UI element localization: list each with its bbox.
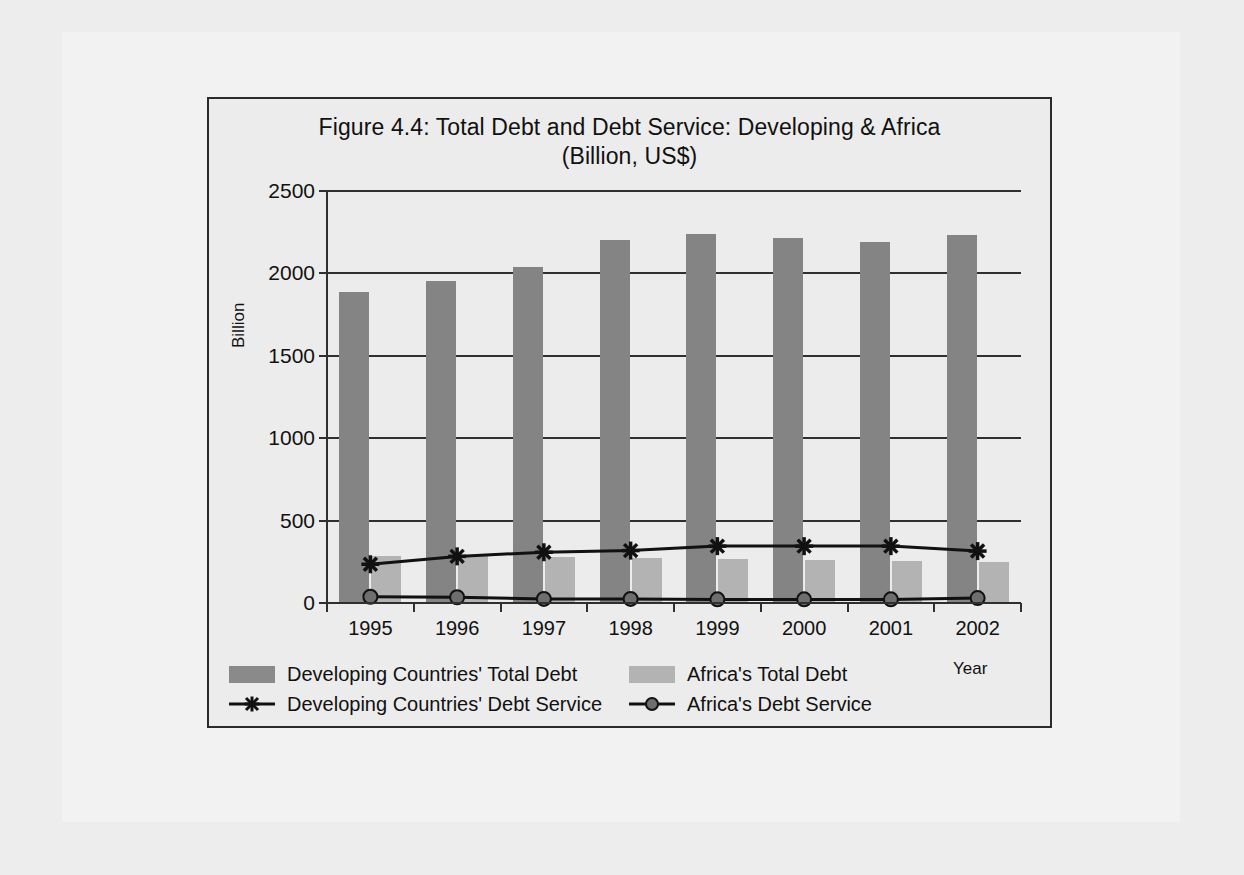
chart-figure: Figure 4.4: Total Debt and Debt Service:… — [207, 97, 1052, 728]
bar — [805, 560, 835, 603]
legend-line-circle-icon — [629, 695, 675, 713]
x-tick-label: 2001 — [869, 617, 914, 640]
x-tick-label: 1995 — [348, 617, 393, 640]
chart-title: Figure 4.4: Total Debt and Debt Service:… — [209, 113, 1050, 172]
x-tick-label: 1998 — [608, 617, 653, 640]
bar — [545, 557, 575, 603]
bar — [773, 238, 803, 603]
y-tick-label: 1000 — [268, 426, 315, 450]
bar — [458, 555, 488, 603]
legend-swatch-icon — [229, 666, 275, 683]
bar — [947, 235, 977, 603]
chart-title-line-1: Figure 4.4: Total Debt and Debt Service:… — [319, 114, 941, 140]
y-axis-line — [326, 191, 328, 603]
x-tick-label: 2002 — [955, 617, 1000, 640]
x-tick-mark — [413, 603, 415, 612]
x-tick-label: 2000 — [782, 617, 827, 640]
legend-swatch-icon — [629, 666, 675, 683]
x-tick-mark — [847, 603, 849, 612]
y-tick-label: 0 — [303, 591, 315, 615]
bar — [632, 558, 662, 603]
plot-area: 05001000150020002500 1995199619971998199… — [327, 191, 1021, 603]
x-tick-label: 1996 — [435, 617, 480, 640]
x-tick-mark — [1020, 603, 1022, 612]
legend-label: Developing Countries' Debt Service — [287, 693, 602, 716]
x-tick-label: 1999 — [695, 617, 740, 640]
y-tick-label: 2000 — [268, 261, 315, 285]
x-tick-mark — [673, 603, 675, 612]
legend-row-2: Developing Countries' Debt Service Afric… — [229, 689, 929, 719]
y-axis-title: Billion — [229, 303, 249, 348]
gridline — [327, 272, 1021, 274]
x-axis-line — [327, 602, 1021, 604]
bar — [339, 292, 369, 603]
bar — [979, 562, 1009, 603]
bar — [513, 267, 543, 603]
bar — [686, 234, 716, 603]
x-tick-mark — [760, 603, 762, 612]
x-tick-mark — [586, 603, 588, 612]
legend-entry-developing-debt-service: Developing Countries' Debt Service — [229, 693, 629, 716]
y-tick-label: 500 — [280, 509, 315, 533]
x-tick-mark — [933, 603, 935, 612]
bar — [860, 242, 890, 603]
x-tick-mark — [500, 603, 502, 612]
legend-entry-africa-total-debt: Africa's Total Debt — [629, 663, 847, 686]
legend-entry-developing-total-debt: Developing Countries' Total Debt — [229, 663, 629, 686]
x-tick-mark — [326, 603, 328, 612]
bar — [600, 240, 630, 603]
bar — [426, 281, 456, 603]
legend-label: Developing Countries' Total Debt — [287, 663, 577, 686]
y-tick-label: 2500 — [268, 179, 315, 203]
legend-label: Africa's Total Debt — [687, 663, 847, 686]
legend-line-asterisk-icon — [229, 695, 275, 713]
legend-entry-africa-debt-service: Africa's Debt Service — [629, 693, 872, 716]
chart-title-line-2: (Billion, US$) — [209, 142, 1050, 171]
legend-label: Africa's Debt Service — [687, 693, 872, 716]
gridline — [327, 190, 1021, 192]
x-axis-title: Year — [953, 659, 987, 679]
x-tick-label: 1997 — [522, 617, 567, 640]
bar — [718, 559, 748, 603]
bar — [371, 556, 401, 603]
legend-row-1: Developing Countries' Total Debt Africa'… — [229, 659, 929, 689]
bar — [892, 561, 922, 603]
y-tick-label: 1500 — [268, 344, 315, 368]
chart-legend: Developing Countries' Total Debt Africa'… — [229, 659, 929, 719]
